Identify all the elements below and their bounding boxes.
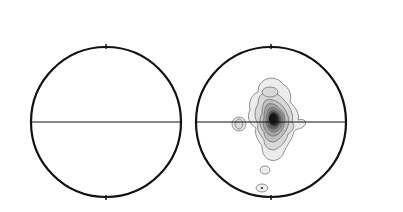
- stereonet-b: [196, 44, 346, 200]
- density-contours: [232, 78, 306, 192]
- figure-canvas: [0, 0, 403, 212]
- stereonet-a: [31, 44, 181, 200]
